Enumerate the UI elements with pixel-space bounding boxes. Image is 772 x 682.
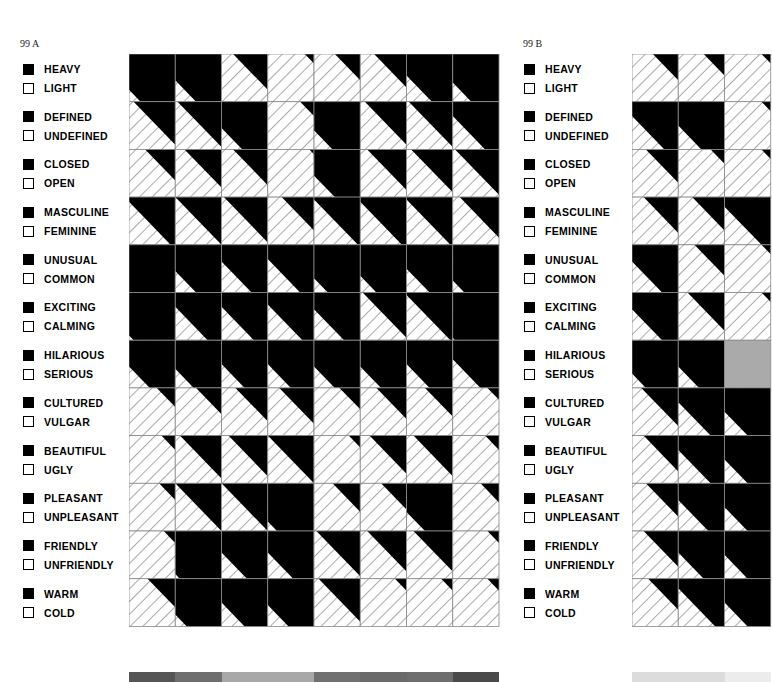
legend-label: HEAVY xyxy=(44,63,81,75)
legend-item-beautiful: BEAUTIFUL xyxy=(23,444,106,458)
empty-square-icon xyxy=(23,369,34,380)
panel-a-grid xyxy=(129,54,501,628)
grid-cell xyxy=(268,149,314,197)
grid-cell xyxy=(222,340,268,388)
legend-item-pleasant: PLEASANT xyxy=(23,491,103,505)
legend-label: VULGAR xyxy=(545,416,591,428)
legend-item-undefined: UNDEFINED xyxy=(524,129,609,143)
grid-cell xyxy=(129,340,175,388)
grid-cell xyxy=(268,245,314,293)
legend-item-exciting: EXCITING xyxy=(23,300,96,314)
filled-square-icon xyxy=(524,64,535,75)
grid-cell xyxy=(360,102,406,150)
grid-cell xyxy=(222,245,268,293)
grid-cell xyxy=(407,483,453,531)
color-swatch xyxy=(725,672,771,682)
grid-cell xyxy=(407,531,453,579)
filled-square-icon xyxy=(23,111,34,122)
grid-cell xyxy=(129,388,175,436)
grid-cell xyxy=(725,483,771,531)
legend-label: COLD xyxy=(44,607,75,619)
empty-square-icon xyxy=(23,607,34,618)
legend-item-beautiful: BEAUTIFUL xyxy=(524,444,607,458)
empty-square-icon xyxy=(524,226,535,237)
legend-label: UNDEFINED xyxy=(545,130,609,142)
grid-cell xyxy=(314,388,360,436)
empty-square-icon xyxy=(524,178,535,189)
filled-square-icon xyxy=(23,302,34,313)
legend-label: DEFINED xyxy=(545,111,593,123)
grid-cell xyxy=(129,102,175,150)
grid-cell xyxy=(632,102,678,150)
legend-item-feminine: FEMININE xyxy=(524,224,598,238)
legend-item-common: COMMON xyxy=(23,272,95,286)
grid-cell xyxy=(453,197,499,245)
legend-label: UNPLEASANT xyxy=(44,511,119,523)
filled-square-icon xyxy=(524,350,535,361)
color-swatch xyxy=(407,672,453,682)
grid-cell xyxy=(453,102,499,150)
legend-label: CULTURED xyxy=(545,397,604,409)
legend-label: UGLY xyxy=(545,464,574,476)
legend-item-masculine: MASCULINE xyxy=(524,205,610,219)
grid-cell xyxy=(314,483,360,531)
grid-cell xyxy=(725,531,771,579)
legend-item-vulgar: VULGAR xyxy=(524,415,591,429)
grid-cell xyxy=(175,436,221,484)
grid-cell xyxy=(360,197,406,245)
grid-cell xyxy=(678,483,724,531)
legend-label: UNUSUAL xyxy=(545,254,598,266)
grid-cell xyxy=(314,436,360,484)
grid-cell xyxy=(407,149,453,197)
filled-square-icon xyxy=(23,159,34,170)
grid-cell xyxy=(725,579,771,627)
grid-cell xyxy=(725,293,771,341)
legend-label: EXCITING xyxy=(44,301,96,313)
empty-square-icon xyxy=(23,83,34,94)
grid-cell xyxy=(129,579,175,627)
grid-cell xyxy=(632,293,678,341)
grid-cell xyxy=(678,436,724,484)
panel-a-swatch-strip xyxy=(129,672,499,682)
grid-cell xyxy=(268,54,314,102)
legend-label: LIGHT xyxy=(44,82,77,94)
grid-cell xyxy=(407,54,453,102)
legend-item-masculine: MASCULINE xyxy=(23,205,109,219)
grid-cell xyxy=(453,388,499,436)
grid-cell xyxy=(175,197,221,245)
empty-square-icon xyxy=(23,273,34,284)
color-swatch xyxy=(222,672,268,682)
legend-item-open: OPEN xyxy=(23,176,75,190)
legend-label: PLEASANT xyxy=(545,492,604,504)
grid-cell xyxy=(129,436,175,484)
grid-cell xyxy=(314,340,360,388)
grid-cell xyxy=(222,102,268,150)
empty-square-icon xyxy=(23,178,34,189)
panel-a-label: 99 A xyxy=(20,38,39,49)
legend-label: CALMING xyxy=(44,320,95,332)
panel-b-label: 99 B xyxy=(523,38,542,49)
grid-cell xyxy=(129,483,175,531)
grid-cell xyxy=(129,293,175,341)
legend-label: COMMON xyxy=(545,273,596,285)
grid-cell xyxy=(407,340,453,388)
grid-cell xyxy=(632,483,678,531)
grid-cell xyxy=(360,531,406,579)
filled-square-icon xyxy=(524,159,535,170)
color-swatch xyxy=(632,672,678,682)
legend-item-cultured: CULTURED xyxy=(524,396,604,410)
filled-square-icon xyxy=(524,254,535,265)
panel-b-swatch-strip xyxy=(632,672,771,682)
legend-item-defined: DEFINED xyxy=(23,110,92,124)
grid-cell xyxy=(407,293,453,341)
filled-square-icon xyxy=(23,64,34,75)
color-swatch xyxy=(268,672,314,682)
legend-label: MASCULINE xyxy=(545,206,610,218)
grid-cell xyxy=(129,197,175,245)
filled-square-icon xyxy=(524,207,535,218)
filled-square-icon xyxy=(524,540,535,551)
color-swatch xyxy=(129,672,175,682)
grid-cell xyxy=(222,293,268,341)
legend-label: SERIOUS xyxy=(44,368,93,380)
empty-square-icon xyxy=(524,512,535,523)
